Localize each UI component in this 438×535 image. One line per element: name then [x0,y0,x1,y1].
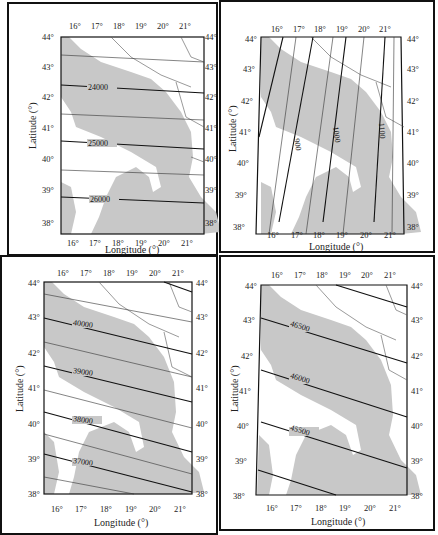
svg-text:38°: 38° [233,222,245,232]
sea-region [61,37,220,234]
svg-text:19°: 19° [135,21,147,31]
svg-text:16°: 16° [271,270,283,280]
y-axis-label: Latitude (°) [229,366,241,412]
svg-text:40°: 40° [237,421,249,431]
svg-text:44°: 44° [245,34,257,44]
svg-text:20°: 20° [361,270,373,280]
svg-text:19°: 19° [125,504,137,514]
svg-text:44°: 44° [245,281,257,291]
y-ticks-right: 44°43° 42°41° 40°39° 38° [205,32,217,228]
svg-text:39°: 39° [42,185,54,195]
svg-text:20°: 20° [358,24,370,34]
svg-text:39°: 39° [235,456,247,466]
map-b: 900 1000 1100 16°17° 18°19° 20°21° 16°17… [221,2,437,255]
svg-text:17°: 17° [91,21,103,31]
y-axis-label: Latitude (°) [227,106,239,152]
y-ticks-left: 44°43° 42°41° 40°39° 38° [42,32,54,228]
contour-label: 1100 [377,123,387,139]
svg-text:20°: 20° [360,230,372,240]
svg-text:16°: 16° [69,21,81,31]
svg-text:18°: 18° [100,504,112,514]
svg-text:42°: 42° [407,96,419,106]
y-ticks-right: 44°43° 42°41° 40°39° 38° [196,278,208,499]
y-axis-label: Latitude (°) [14,366,26,412]
x-ticks-bottom: 16°17° 18°19° 20°21° [266,503,401,513]
svg-text:41°: 41° [196,383,208,393]
svg-text:18°: 18° [103,268,115,278]
contour-label: 38000 [72,414,93,426]
svg-text:18°: 18° [313,230,325,240]
map-a: 24000 25000 26000 16°17° 18°19° 20°21° 1… [9,4,220,258]
svg-text:43°: 43° [243,315,255,325]
svg-text:38°: 38° [28,489,40,499]
svg-text:18°: 18° [113,21,125,31]
svg-text:17°: 17° [291,230,303,240]
svg-text:39°: 39° [28,454,40,464]
svg-text:43°: 43° [28,312,40,322]
svg-text:43°: 43° [205,62,217,72]
svg-text:20°: 20° [364,503,376,513]
svg-text:40°: 40° [411,421,423,431]
x-axis-label: Longitude (°) [311,516,365,528]
contour-label: 24000 [88,83,108,92]
svg-text:16°: 16° [266,503,278,513]
svg-text:18°: 18° [315,503,327,513]
y-ticks-right: 44°43° 42°41° 40°39° 38° [407,34,419,232]
svg-text:38°: 38° [407,222,419,232]
y-axis-label: Latitude (°) [27,103,39,149]
svg-text:21°: 21° [179,21,191,31]
svg-text:17°: 17° [293,24,305,34]
svg-text:21°: 21° [174,504,186,514]
svg-text:17°: 17° [290,503,302,513]
svg-text:40°: 40° [407,158,419,168]
svg-text:38°: 38° [411,491,423,501]
svg-text:16°: 16° [271,24,283,34]
x-axis-label: Longitude (°) [309,241,363,253]
svg-text:42°: 42° [205,92,217,102]
svg-text:17°: 17° [89,238,101,248]
svg-text:41°: 41° [407,127,419,137]
x-ticks-top: 16°17° 18°19° 20°21° [271,24,391,34]
map-d: 46500 46000 45500 16°17° 18°19° 20°21° 1… [221,257,437,533]
svg-text:38°: 38° [196,489,208,499]
svg-text:20°: 20° [158,238,170,248]
svg-text:44°: 44° [42,32,54,42]
svg-text:16°: 16° [51,504,63,514]
panel-a: 24000 25000 26000 16°17° 18°19° 20°21° 1… [7,2,218,256]
svg-text:41°: 41° [205,123,217,133]
svg-text:44°: 44° [411,281,423,291]
svg-text:20°: 20° [149,268,161,278]
svg-text:43°: 43° [407,64,419,74]
svg-text:41°: 41° [28,383,40,393]
svg-text:38°: 38° [42,218,54,228]
contour-label: 900 [292,138,303,151]
x-ticks-top: 16°17° 18°19° 20°21° [57,268,184,278]
svg-text:21°: 21° [389,503,401,513]
contour-label: 25000 [88,139,108,148]
svg-text:39°: 39° [407,190,419,200]
svg-text:39°: 39° [411,456,423,466]
svg-text:42°: 42° [196,348,208,358]
svg-text:18°: 18° [314,24,326,34]
svg-text:42°: 42° [28,348,40,358]
contour-label: 26000 [90,195,110,204]
svg-text:16°: 16° [57,268,69,278]
svg-text:44°: 44° [28,278,40,288]
svg-text:19°: 19° [336,24,348,34]
svg-text:19°: 19° [126,268,138,278]
x-ticks-top: 16°17° 18°19° 20°21° [271,270,396,280]
panel-b: 900 1000 1100 16°17° 18°19° 20°21° 16°17… [219,0,435,253]
svg-text:42°: 42° [241,96,253,106]
svg-text:20°: 20° [157,21,169,31]
svg-text:38°: 38° [233,491,245,501]
panel-c: 40000 39000 38000 37000 16°17° 18°19° 20… [0,255,218,535]
svg-text:43°: 43° [196,312,208,322]
svg-text:40°: 40° [205,154,217,164]
x-ticks-bottom: 16°17° 18°19° 20°21° [51,504,186,514]
svg-text:42°: 42° [241,351,253,361]
svg-text:44°: 44° [205,32,217,42]
svg-text:38°: 38° [205,218,217,228]
svg-text:44°: 44° [196,278,208,288]
svg-text:21°: 21° [379,24,391,34]
svg-text:42°: 42° [42,92,54,102]
